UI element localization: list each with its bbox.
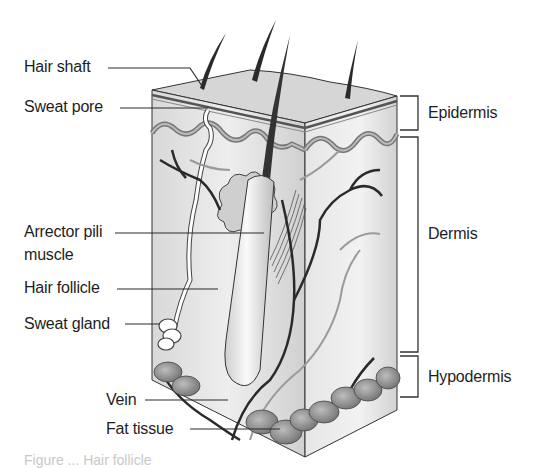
dermis-bracket (400, 137, 418, 352)
label-vein: Vein (106, 391, 136, 409)
label-hair-shaft: Hair shaft (24, 58, 90, 76)
label-sweat-gland: Sweat gland (24, 315, 110, 333)
figure-caption: Figure ... Hair follicle (24, 452, 152, 468)
hypodermis-bracket (400, 356, 418, 397)
layer-brackets (400, 96, 418, 397)
epidermis-bracket (400, 96, 418, 130)
label-epidermis: Epidermis (428, 104, 497, 122)
label-fat-tissue: Fat tissue (106, 420, 173, 438)
label-hypodermis: Hypodermis (428, 368, 511, 386)
label-dermis: Dermis (428, 225, 477, 243)
label-arrector-pili-2: muscle (24, 246, 73, 264)
label-hair-follicle: Hair follicle (24, 279, 100, 297)
label-sweat-pore: Sweat pore (24, 98, 103, 116)
label-arrector-pili-1: Arrector pili (24, 223, 102, 241)
